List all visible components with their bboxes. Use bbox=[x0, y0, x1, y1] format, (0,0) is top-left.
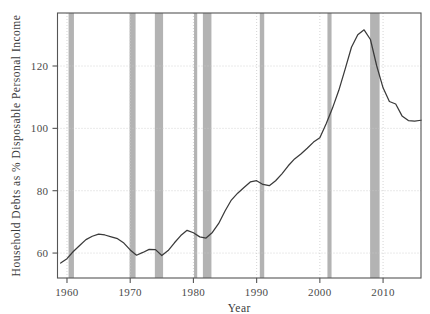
recession-band bbox=[370, 13, 379, 278]
tick-mark-group bbox=[53, 66, 384, 283]
recession-band bbox=[69, 13, 74, 278]
x-axis-tick-label: 1970 bbox=[118, 286, 142, 298]
x-axis-tick-label: 1980 bbox=[182, 286, 206, 298]
data-series-line bbox=[61, 30, 421, 263]
tick-label-group: 6080100120196019701980199020002010 bbox=[31, 60, 395, 298]
recession-band bbox=[155, 13, 163, 278]
chart-plot-area: 6080100120196019701980199020002010 YearH… bbox=[0, 0, 430, 314]
x-axis-tick-label: 2010 bbox=[371, 286, 395, 298]
y-axis-tick-label: 120 bbox=[31, 60, 49, 72]
grid-line-group bbox=[58, 13, 422, 278]
x-axis-tick-label: 1990 bbox=[245, 286, 269, 298]
recession-band bbox=[194, 13, 197, 278]
x-axis-title: Year bbox=[228, 302, 251, 314]
x-axis-tick-label: 1960 bbox=[55, 286, 79, 298]
series-line-household-debt bbox=[61, 30, 421, 263]
y-axis-tick-label: 80 bbox=[37, 185, 49, 197]
x-axis-tick-label: 2000 bbox=[308, 286, 332, 298]
recession-band bbox=[260, 13, 264, 278]
y-axis-title: Household Debts as % Disposable Personal… bbox=[10, 15, 23, 277]
plot-border bbox=[58, 13, 422, 278]
recession-band bbox=[327, 13, 331, 278]
y-axis-tick-label: 100 bbox=[31, 122, 49, 134]
y-axis-tick-label: 60 bbox=[37, 247, 49, 259]
chart-figure: 6080100120196019701980199020002010 YearH… bbox=[0, 0, 430, 314]
plot-frame bbox=[58, 13, 422, 278]
